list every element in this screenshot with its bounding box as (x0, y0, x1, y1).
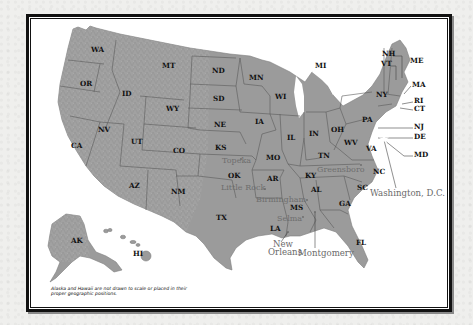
state-label-ne: NE (214, 120, 227, 129)
state-label-ut: UT (131, 137, 143, 146)
state-label-ca: CA (71, 141, 83, 150)
city-label-topeka: Topeka (222, 156, 251, 165)
city-label-montgomery: Montgomery (298, 248, 354, 258)
state-label-nj: NJ (414, 122, 425, 131)
state-label-ak: AK (70, 236, 84, 245)
state-label-az: AZ (128, 181, 140, 190)
state-label-sc: SC (357, 183, 368, 192)
state-label-nv: NV (98, 125, 111, 134)
map-caption: Alaska and Hawaii are not drawn to scale… (51, 286, 191, 297)
city-label-washington-d-c-: Washington, D.C. (370, 188, 445, 198)
city-label-little-rock: Little Rock (221, 183, 265, 192)
state-label-ky: KY (305, 171, 317, 180)
state-label-ga: GA (339, 199, 351, 208)
state-label-mn: MN (249, 73, 264, 82)
state-label-md: MD (414, 150, 428, 159)
city-label-selma: Selma (277, 214, 302, 223)
state-label-me: ME (410, 56, 424, 65)
state-label-nc: NC (373, 167, 386, 176)
state-label-pa: PA (362, 115, 373, 124)
state-label-co: CO (173, 146, 185, 155)
state-label-mt: MT (162, 61, 176, 70)
state-label-nh: NH (382, 49, 396, 58)
state-label-hi: HI (133, 249, 144, 258)
state-label-ct: CT (414, 104, 426, 113)
state-label-vt: VT (380, 59, 393, 68)
state-label-ma: MA (412, 80, 426, 89)
state-label-oh: OH (331, 125, 344, 134)
state-label-mi: MI (315, 61, 327, 70)
state-label-fl: FL (356, 238, 366, 247)
city-label-greensboro: Greensboro (317, 165, 365, 174)
state-label-tn: TN (318, 151, 330, 160)
state-label-ny: NY (376, 90, 389, 99)
state-label-nd: ND (212, 66, 225, 75)
state-label-or: OR (80, 79, 93, 88)
state-label-id: ID (122, 89, 132, 98)
city-label-new-orleans-line2: Orleans (268, 247, 302, 257)
state-label-wi: WI (274, 92, 287, 101)
contiguous-us-landmass (58, 26, 410, 270)
state-label-wy: WY (165, 104, 180, 113)
state-label-la: LA (270, 224, 281, 233)
state-label-de: DE (414, 132, 426, 141)
state-label-ia: IA (255, 117, 264, 126)
state-label-tx: TX (216, 213, 227, 222)
state-label-nm: NM (171, 187, 186, 196)
state-label-ms: MS (290, 203, 303, 212)
state-label-sd: SD (213, 94, 224, 103)
state-label-in: IN (309, 129, 319, 138)
state-label-ks: KS (215, 143, 226, 152)
state-label-mo: MO (266, 153, 280, 162)
state-label-wv: WV (343, 138, 358, 147)
city-label-birmingham: Birmingham (256, 195, 307, 204)
state-label-ok: OK (228, 171, 241, 180)
state-label-ar: AR (266, 174, 280, 183)
state-label-wa: WA (90, 45, 105, 54)
state-label-va: VA (365, 144, 377, 153)
hawaii-islands (104, 228, 151, 261)
state-label-il: IL (287, 133, 295, 142)
state-label-al: AL (310, 185, 322, 194)
us-map: WAORMTIDWYNDSDNEMNWIMIIAILINOHPANYNVUTCO… (0, 0, 473, 325)
alaska-landmass (48, 214, 122, 282)
capital-star-icon (379, 134, 389, 143)
